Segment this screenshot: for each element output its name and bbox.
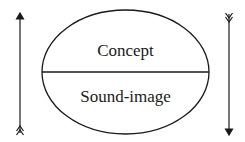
up-arrow-icon [17,13,24,135]
down-arrow-icon [226,13,233,135]
concept-label: Concept [97,41,154,60]
sound-image-label: Sound-image [80,87,171,106]
sign-diagram: Concept Sound-image [0,0,245,142]
